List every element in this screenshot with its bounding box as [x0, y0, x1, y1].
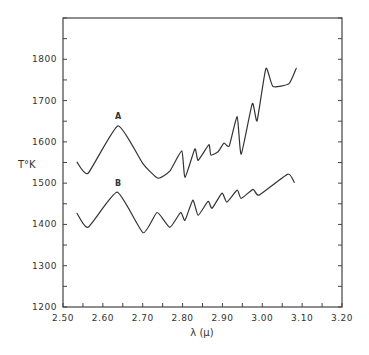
- x-axis: 2.502.602.702.802.903.003.103.20: [52, 303, 353, 323]
- x-tick-label: 3.10: [291, 313, 313, 323]
- series-b-line: [77, 174, 294, 233]
- x-tick-label: 3.20: [331, 313, 353, 323]
- y-tick-label: 1400: [32, 219, 57, 229]
- x-tick-label: 2.70: [132, 313, 154, 323]
- series-a-line: [77, 68, 296, 178]
- x-tick-label: 3.00: [251, 313, 273, 323]
- y-tick-label: 1700: [32, 96, 57, 106]
- x-tick-label: 2.50: [52, 313, 74, 323]
- series-a-label: A: [115, 112, 122, 121]
- series-b-label: B: [115, 179, 121, 188]
- x-tick-label: 2.90: [211, 313, 233, 323]
- y-tick-label: 1300: [32, 261, 57, 271]
- y-tick-label: 1800: [32, 54, 57, 64]
- y-tick-label: 1600: [32, 137, 57, 147]
- y-tick-label: 1500: [32, 178, 57, 188]
- y-axis-title: T°K: [17, 159, 36, 170]
- x-tick-label: 2.80: [172, 313, 194, 323]
- y-tick-label: 1200: [32, 302, 57, 312]
- x-tick-label: 2.60: [92, 313, 114, 323]
- plot-frame: [63, 18, 342, 307]
- temperature-wavelength-chart: 2.502.602.702.802.903.003.103.20 1200130…: [0, 0, 369, 355]
- x-axis-title: λ (μ): [190, 327, 213, 338]
- series-group: AB: [77, 68, 296, 233]
